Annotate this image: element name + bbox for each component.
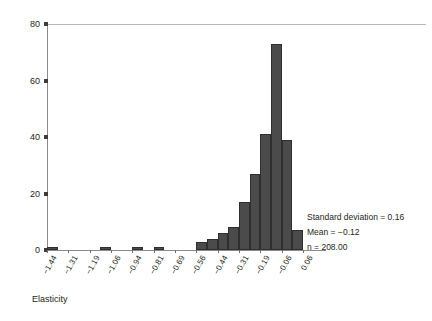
x-axis-tick: [260, 250, 261, 253]
histogram-bar: [154, 247, 165, 250]
x-axis-tick-label: −0.19: [254, 254, 272, 276]
x-axis-tick: [282, 250, 283, 253]
x-axis-tick-label: −1.44: [41, 254, 59, 276]
histogram-bar: [196, 242, 207, 250]
x-axis-tick: [132, 250, 133, 253]
x-axis-tick: [196, 250, 197, 253]
x-axis-tick: [90, 250, 91, 253]
x-axis-tick-label: −1.06: [105, 254, 123, 276]
x-axis-tick-label: −0.06: [276, 254, 294, 276]
histogram-bar: [218, 233, 229, 250]
standard-deviation-label: Standard deviation = 0.16: [307, 210, 404, 225]
histogram-chart: 020406080 −1.44−1.31−1.19−1.06−0.94−0.81…: [0, 0, 432, 321]
x-axis-tick-label: −0.94: [126, 254, 144, 276]
y-axis-tick-label: 60: [0, 76, 40, 86]
x-axis-tick-label: −1.31: [62, 254, 80, 276]
histogram-bar: [228, 227, 239, 250]
x-axis-tick: [68, 250, 69, 253]
y-axis-tick-label: 40: [0, 132, 40, 142]
histogram-bar: [282, 140, 293, 250]
histogram-bar: [292, 230, 303, 250]
histogram-bar: [260, 134, 271, 250]
x-axis-tick: [111, 250, 112, 253]
x-axis-tick: [47, 250, 48, 253]
x-axis-tick-label: −0.56: [190, 254, 208, 276]
plot-area: [47, 24, 303, 250]
histogram-bar: [239, 202, 250, 250]
y-axis-tick-label: 80: [0, 19, 40, 29]
y-axis-tick-label: 0: [0, 245, 40, 255]
histogram-bar: [132, 247, 143, 250]
histogram-bar: [207, 239, 218, 250]
histogram-bar: [100, 247, 111, 250]
x-axis-tick: [239, 250, 240, 253]
x-axis-tick: [175, 250, 176, 253]
x-axis-tick-label: −0.31: [233, 254, 251, 276]
x-axis-tick-label: −1.19: [84, 254, 102, 276]
statistics-annotation: Standard deviation = 0.16 Mean = −0.12 n…: [307, 210, 404, 255]
x-axis-tick-label: 0.06: [299, 254, 315, 272]
sample-size-label: n = 208.00: [307, 240, 404, 255]
x-axis-tick: [154, 250, 155, 253]
histogram-bar: [47, 247, 58, 250]
x-axis-tick: [218, 250, 219, 253]
x-axis-tick-label: −0.81: [148, 254, 166, 276]
histogram-bar: [250, 174, 261, 250]
mean-label: Mean = −0.12: [307, 225, 404, 240]
x-axis-tick-label: −0.44: [212, 254, 230, 276]
histogram-bar: [271, 44, 282, 250]
y-axis-tick-label: 20: [0, 189, 40, 199]
x-axis-title: Elasticity: [32, 294, 68, 304]
x-axis-tick: [303, 250, 304, 253]
x-axis-tick-label: −0.69: [169, 254, 187, 276]
